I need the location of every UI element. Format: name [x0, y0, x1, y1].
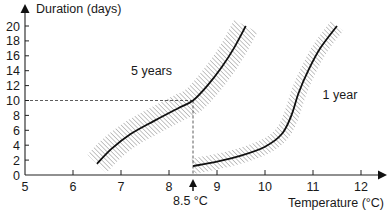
- x-tick-label: 7: [118, 180, 125, 194]
- x-axis-title: Temperature (°C): [288, 196, 384, 210]
- y-tick-label: 0: [13, 169, 20, 183]
- y-tick-label: 10: [6, 94, 20, 108]
- x-tick-label: 8: [166, 180, 173, 194]
- series-label-5-years: 5 years: [131, 64, 172, 78]
- y-tick-label: 2: [13, 154, 20, 168]
- chart: 5678910111202468101214161820 Duration (d…: [0, 0, 389, 213]
- uncertainty-bands: [88, 20, 344, 174]
- y-tick-label: 14: [6, 64, 20, 78]
- band-0: [88, 20, 258, 173]
- y-axis-title: Duration (days): [36, 2, 121, 16]
- x-tick-label: 11: [307, 180, 320, 194]
- y-tick-label: 20: [6, 20, 20, 34]
- x-tick-label: 6: [70, 180, 77, 194]
- x-tick-label: 9: [214, 180, 221, 194]
- y-tick-label: 4: [13, 139, 20, 153]
- series-label-1-year: 1 year: [323, 88, 358, 102]
- x-tick-label: 5: [22, 180, 29, 194]
- y-tick-label: 16: [6, 49, 20, 63]
- x-axis-arrow-icon: [378, 171, 387, 180]
- x-tick-label: 10: [258, 180, 272, 194]
- y-tick-label: 8: [13, 109, 20, 123]
- marker-label: 8.5 °C: [173, 194, 208, 208]
- y-tick-label: 18: [6, 34, 20, 48]
- y-tick-label: 6: [13, 124, 20, 138]
- y-tick-label: 12: [6, 79, 20, 93]
- x-tick-label: 12: [354, 180, 368, 194]
- y-axis-arrow-icon: [21, 4, 30, 13]
